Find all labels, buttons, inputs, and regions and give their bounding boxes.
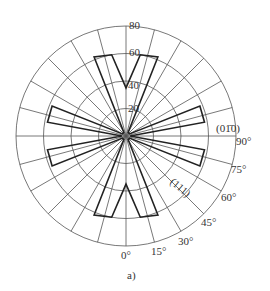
angle-tick-45: 45° <box>201 217 216 228</box>
figure-caption: a) <box>127 270 136 281</box>
radial-tick-20: 20 <box>128 103 139 114</box>
radial-tick-80: 80 <box>129 20 140 31</box>
radial-tick-40: 40 <box>128 80 139 91</box>
polar-chart <box>0 0 270 291</box>
radial-tick-60: 60 <box>129 47 140 58</box>
angle-tick-0: 0° <box>121 250 131 261</box>
angle-tick-30: 30° <box>178 236 193 247</box>
polar-grid <box>16 26 236 246</box>
angle-tick-75: 75° <box>231 164 246 175</box>
angle-tick-60: 60° <box>221 192 236 203</box>
angle-tick-15: 15° <box>151 246 166 257</box>
annotation-010: (01̄0) <box>216 123 240 134</box>
angle-tick-90: 90° <box>236 136 251 147</box>
